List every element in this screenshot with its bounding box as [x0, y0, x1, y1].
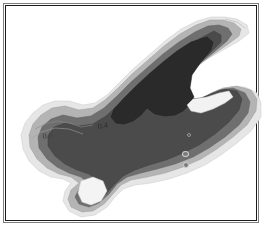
sample-point-marker: [187, 133, 191, 137]
figure-outer-frame: 0.6 0.4: [3, 3, 259, 223]
sample-point-marker: [183, 162, 189, 168]
contour-plot-area: 0.6 0.4: [11, 11, 263, 227]
contour-map-svg: [11, 11, 263, 227]
screenshot-root: 0.6 0.4: [0, 0, 264, 228]
figure-inner-frame: 0.6 0.4: [5, 5, 257, 221]
contour-label-0-6: 0.6: [42, 130, 53, 140]
sample-point-marker: [182, 151, 189, 157]
contour-label-0-4: 0.4: [97, 120, 108, 130]
